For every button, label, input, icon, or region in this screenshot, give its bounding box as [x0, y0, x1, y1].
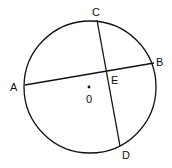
- label-o: 0: [86, 93, 92, 105]
- label-c: C: [92, 6, 100, 18]
- chord-ab: [25, 63, 154, 85]
- label-d: D: [122, 149, 130, 161]
- geometry-diagram: C B A E 0 D: [0, 0, 172, 168]
- label-e: E: [111, 74, 118, 86]
- label-b: B: [156, 56, 163, 68]
- center-point: [88, 86, 91, 89]
- label-a: A: [10, 81, 18, 93]
- diagram-svg: C B A E 0 D: [0, 0, 172, 168]
